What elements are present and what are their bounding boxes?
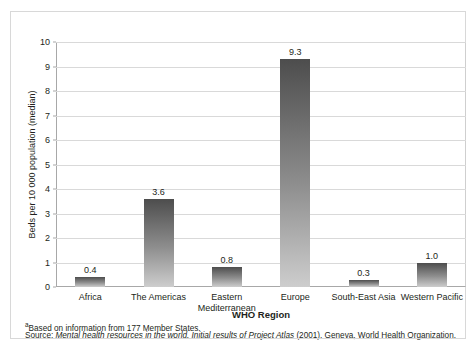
- bar-europe: 9.3: [280, 59, 310, 287]
- x-axis-tick-label: The Americas: [121, 292, 197, 303]
- gridline: [56, 214, 466, 215]
- bar-value-label: 0.4: [84, 265, 97, 275]
- bar-value-label: 3.6: [152, 187, 165, 197]
- gridline: [56, 189, 466, 190]
- y-axis-tick-mark: [53, 287, 56, 288]
- y-axis-tick-label: 6: [45, 135, 50, 145]
- bar-value-label: 1.0: [426, 251, 439, 261]
- figure-container: Beds per 10 000 population (median) 0123…: [10, 11, 466, 339]
- y-axis-tick-mark: [53, 66, 56, 67]
- bar-south-east-asia: 0.3: [349, 280, 379, 287]
- y-axis-tick-label: 9: [45, 62, 50, 72]
- y-axis-tick-mark: [53, 91, 56, 92]
- y-axis-tick-label: 1: [45, 258, 50, 268]
- y-axis-tick-label: 3: [45, 209, 50, 219]
- bottom-divider: [10, 338, 466, 339]
- gridline: [56, 165, 466, 166]
- plot-area-wrapper: 012345678910 0.43.60.89.30.31.0 AfricaTh…: [56, 42, 466, 287]
- bar-value-label: 9.3: [289, 47, 302, 57]
- gridline: [56, 140, 466, 141]
- x-axis-tick-label: South-East Asia: [326, 292, 402, 303]
- y-axis-tick-label: 8: [45, 86, 50, 96]
- bar-value-label: 0.3: [357, 268, 370, 278]
- gridline: [56, 238, 466, 239]
- y-axis-tick-mark: [53, 42, 56, 43]
- gridline: [56, 67, 466, 68]
- gridline: [56, 116, 466, 117]
- bar-value-label: 0.8: [221, 255, 234, 265]
- cut-off-caption-text: · · · · · ·: [14, 0, 47, 2]
- x-axis-tick-label: Western Pacific: [394, 292, 470, 303]
- y-axis-tick-mark: [53, 189, 56, 190]
- y-axis-tick-label: 7: [45, 111, 50, 121]
- y-axis-tick-mark: [53, 262, 56, 263]
- x-axis-tick-label: Europe: [257, 292, 333, 303]
- y-axis-tick-label: 4: [45, 184, 50, 194]
- bar-eastern-mediterranean: 0.8: [212, 267, 242, 287]
- y-axis-tick-mark: [53, 164, 56, 165]
- y-axis-title: Beds per 10 000 population (median): [25, 42, 39, 287]
- gridline: [56, 263, 466, 264]
- x-axis-tick-label: Africa: [52, 292, 128, 303]
- y-axis-tick-mark: [53, 213, 56, 214]
- bar-africa: 0.4: [75, 277, 105, 287]
- bar-the-americas: 3.6: [144, 199, 174, 287]
- gridline: [56, 91, 466, 92]
- y-axis-tick-mark: [53, 140, 56, 141]
- y-axis-tick-label: 5: [45, 160, 50, 170]
- y-axis-tick-label: 2: [45, 233, 50, 243]
- footnote-source: Source: Mental health resources in the w…: [25, 331, 456, 341]
- y-axis-tick-label: 10: [40, 37, 50, 47]
- cut-off-caption-strip: · · · · · ·: [0, 0, 476, 9]
- bar-western-pacific: 1.0: [417, 263, 447, 288]
- x-axis-title: WHO Region: [56, 309, 466, 320]
- y-axis-tick-label: 0: [45, 282, 50, 292]
- gridline: [56, 42, 466, 43]
- y-axis-tick-mark: [53, 238, 56, 239]
- y-axis-tick-mark: [53, 115, 56, 116]
